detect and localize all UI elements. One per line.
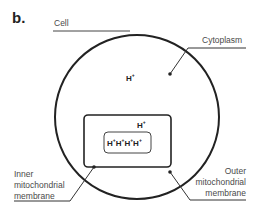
cytoplasm-leader-dot <box>168 72 172 76</box>
cell-outline <box>55 35 219 199</box>
outer-membrane-label-line1: Outer <box>225 166 246 176</box>
cell-label: Cell <box>54 18 69 28</box>
inner-membrane-label-line3: membrane <box>14 191 55 201</box>
outer-membrane-leader-diag <box>170 172 190 200</box>
outer-membrane-label-line3: membrane <box>205 188 246 198</box>
inner-membrane-label-line1: Inner <box>14 169 33 179</box>
cytoplasm-leader-diag <box>170 48 188 74</box>
cytoplasm-label: Cytoplasm <box>202 35 242 45</box>
inner-membrane-label-line2: mitochondrial <box>14 180 65 190</box>
outer-membrane-leader-dot <box>168 170 172 174</box>
inner-membrane-leader-dot <box>92 165 96 169</box>
cytoplasm-proton: H+ <box>126 72 135 83</box>
outer-membrane-label-line2: mitochondrial <box>195 177 246 187</box>
panel-label: b. <box>12 9 25 26</box>
intermembrane-proton: H+ <box>137 119 146 130</box>
matrix-protons: H+H+H+H+ <box>107 137 142 148</box>
